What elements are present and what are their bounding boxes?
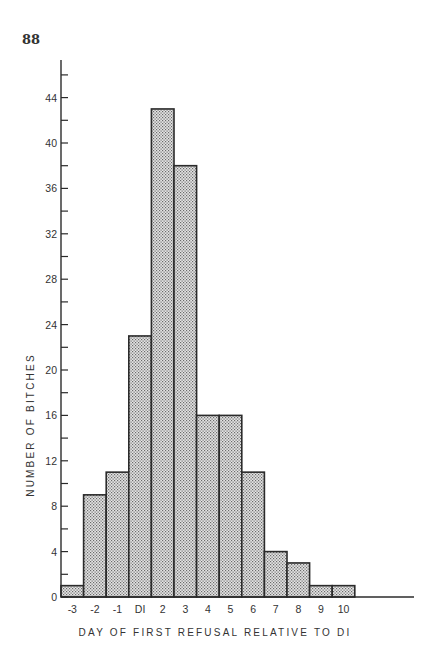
bar--1 <box>106 472 129 597</box>
x-tick-label: 9 <box>318 603 324 615</box>
bar--3 <box>61 586 84 597</box>
x-tick-label: DI <box>135 603 146 615</box>
x-tick-label: 6 <box>250 603 256 615</box>
x-tick-label: -2 <box>90 603 99 615</box>
bar-4 <box>197 415 220 597</box>
x-tick-label: 4 <box>205 603 211 615</box>
bar-DI <box>129 336 152 597</box>
y-tick-label: 4 <box>51 546 57 558</box>
y-tick-label: 32 <box>45 228 57 240</box>
bar-8 <box>287 563 310 597</box>
bar-6 <box>242 472 265 597</box>
y-tick-label: 40 <box>45 137 57 149</box>
y-tick-label: 36 <box>45 182 57 194</box>
bar-5 <box>219 415 242 597</box>
y-tick-label: 24 <box>45 319 57 331</box>
y-tick-label: 44 <box>45 92 57 104</box>
bar-3 <box>174 166 197 597</box>
x-tick-label: -3 <box>68 603 77 615</box>
bar-7 <box>264 552 287 597</box>
bars-group <box>61 109 355 597</box>
histogram-chart: -3-2-1DI2345678910048121620242832364044D… <box>0 0 435 667</box>
x-tick-label: -1 <box>113 603 122 615</box>
bar-9 <box>310 586 333 597</box>
y-tick-label: 8 <box>51 500 57 512</box>
y-tick-label: 16 <box>45 409 57 421</box>
x-tick-label: 8 <box>295 603 301 615</box>
y-tick-label: 28 <box>45 273 57 285</box>
x-tick-label: 7 <box>273 603 279 615</box>
x-tick-label: 2 <box>160 603 166 615</box>
x-tick-label: 5 <box>228 603 234 615</box>
bar-10 <box>332 586 355 597</box>
x-tick-label: 10 <box>338 603 350 615</box>
bar-2 <box>151 109 174 597</box>
bar--2 <box>84 495 107 597</box>
y-tick-label: 20 <box>45 364 57 376</box>
y-tick-label: 0 <box>51 591 57 603</box>
x-axis-title: DAY OF FIRST REFUSAL RELATIVE TO DI <box>79 627 352 638</box>
y-axis-title: NUMBER OF BITCHES <box>25 353 36 497</box>
y-tick-label: 12 <box>45 455 57 467</box>
x-tick-label: 3 <box>182 603 188 615</box>
